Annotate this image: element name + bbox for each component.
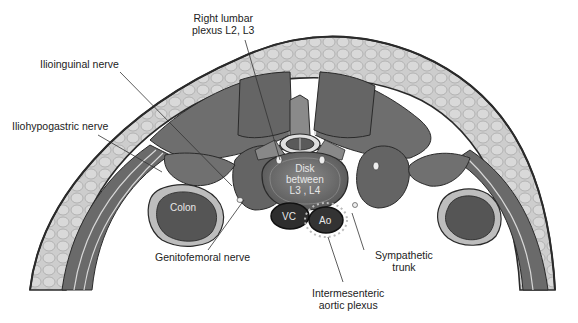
label-vena-cava: VC [282, 211, 296, 222]
psoas-right [357, 146, 410, 208]
label-line: trunk [375, 261, 433, 273]
label-intermesenteric-aortic-plexus: Intermesenteric aortic plexus [312, 287, 384, 311]
label-line: plexus L2, L3 [192, 24, 254, 36]
label-genitofemoral-nerve: Genitofemoral nerve [155, 251, 250, 263]
label-sympathetic-trunk: Sympathetic trunk [375, 249, 433, 273]
label-colon: Colon [170, 202, 196, 213]
label-right-lumbar-plexus: Right lumbar plexus L2, L3 [192, 12, 254, 36]
label-line: Sympathetic [375, 249, 433, 261]
anatomy-cross-section [0, 0, 578, 323]
label-line: Intermesenteric [312, 287, 384, 299]
label-iliohypogastric-nerve: Iliohypogastric nerve [12, 120, 108, 132]
label-line: between [286, 174, 324, 185]
label-line: Disk [286, 163, 324, 174]
label-aorta: Ao [319, 215, 331, 226]
label-line: L3 , L4 [286, 185, 324, 196]
label-line: Right lumbar [192, 12, 254, 24]
label-ilioinguinal-nerve: Ilioinguinal nerve [40, 58, 119, 70]
label-line: aortic plexus [312, 299, 384, 311]
label-disk: Disk between L3 , L4 [286, 163, 324, 196]
